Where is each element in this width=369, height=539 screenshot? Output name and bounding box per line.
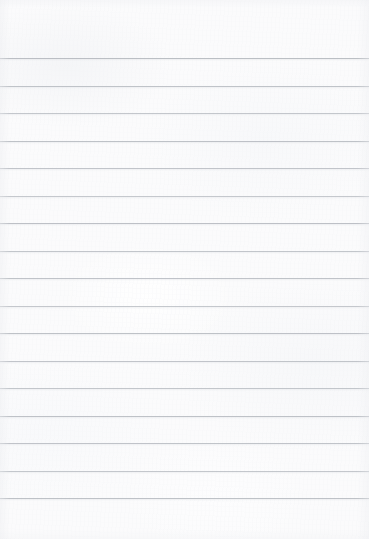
rule-line	[0, 251, 369, 252]
rule-line	[0, 223, 369, 224]
ruled-lines-group	[0, 0, 369, 539]
rule-line	[0, 58, 369, 59]
rule-line	[0, 443, 369, 444]
rule-line	[0, 168, 369, 169]
rule-line	[0, 388, 369, 389]
rule-line	[0, 278, 369, 279]
rule-line	[0, 471, 369, 472]
rule-line	[0, 306, 369, 307]
rule-line	[0, 113, 369, 114]
rule-line	[0, 498, 369, 499]
rule-line	[0, 416, 369, 417]
lined-paper-page	[0, 0, 369, 539]
rule-line	[0, 361, 369, 362]
rule-line	[0, 333, 369, 334]
rule-line	[0, 196, 369, 197]
rule-line	[0, 141, 369, 142]
rule-line	[0, 86, 369, 87]
